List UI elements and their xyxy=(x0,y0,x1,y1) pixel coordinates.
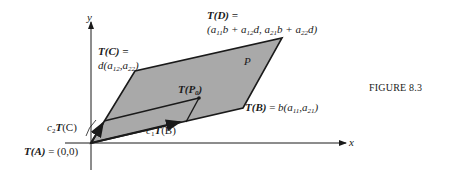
label-c2TC: c2T(C) xyxy=(47,121,77,133)
label-TD-line2: (a11b + a12d, a21b + a22d) xyxy=(207,23,317,35)
x-axis-label: x xyxy=(349,136,354,148)
label-TC-line2: d(a12,a22) xyxy=(98,59,139,71)
figure-caption: FIGURE 8.3 xyxy=(369,82,422,93)
label-TD-line1: T(D) = xyxy=(207,9,238,21)
label-TP0: T(P0) xyxy=(178,83,202,95)
region-label-P: P xyxy=(244,55,251,67)
label-TC-line1: T(C) = xyxy=(98,45,128,57)
label-TA: T(A) = (0,0) xyxy=(24,145,78,157)
label-c1TB: c1T(B) xyxy=(146,124,176,136)
y-axis-label: y xyxy=(87,11,92,23)
label-TB: T(B) = b(a11,a21) xyxy=(245,101,318,113)
